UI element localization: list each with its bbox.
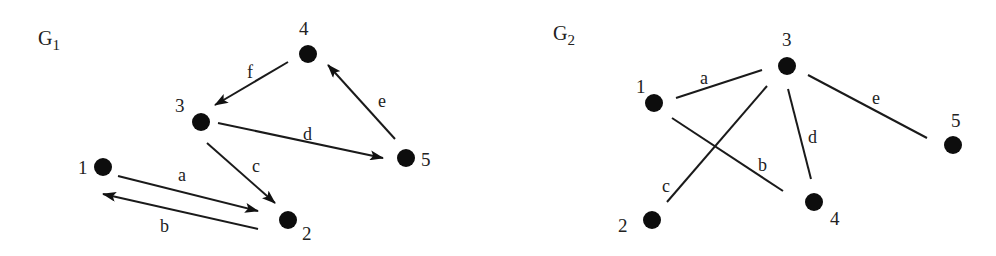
graph-g1-title-sub: 1 bbox=[52, 37, 60, 53]
graph-g2-nodes: 12345 bbox=[618, 29, 962, 236]
node-label-g2-4: 4 bbox=[830, 208, 840, 229]
edge-label-g1-e: e bbox=[378, 91, 386, 111]
edge-label-g1-f: f bbox=[247, 62, 253, 82]
edge-label-g1-c: c bbox=[252, 156, 260, 176]
node-g1-4 bbox=[299, 45, 317, 63]
edge-g2-c bbox=[667, 86, 767, 202]
graph-g2-title-main: G bbox=[553, 22, 567, 44]
node-label-g2-2: 2 bbox=[618, 215, 628, 236]
node-label-g2-3: 3 bbox=[782, 29, 792, 50]
node-g2-2 bbox=[643, 211, 661, 229]
graph-g1-edges: abcdef bbox=[103, 62, 395, 236]
graph-g2: G2 abcde 12345 bbox=[553, 22, 962, 236]
node-g1-1 bbox=[94, 158, 112, 176]
node-g2-1 bbox=[645, 94, 663, 112]
graph-g1-title-main: G bbox=[38, 27, 52, 49]
node-label-g2-1: 1 bbox=[636, 76, 646, 97]
node-label-g1-4: 4 bbox=[299, 18, 309, 39]
graph-g2-title: G2 bbox=[553, 22, 575, 48]
edge-label-g2-d: d bbox=[808, 127, 817, 147]
node-g2-4 bbox=[805, 193, 823, 211]
edge-g1-a bbox=[118, 176, 258, 211]
node-label-g1-5: 5 bbox=[421, 149, 431, 170]
edge-g1-c bbox=[207, 143, 275, 203]
edge-label-g2-c: c bbox=[662, 176, 670, 196]
edge-label-g1-a: a bbox=[178, 165, 186, 185]
edge-g1-d bbox=[218, 123, 383, 158]
edge-g2-e bbox=[808, 75, 927, 138]
edge-g2-a bbox=[676, 70, 762, 98]
edge-label-g2-e: e bbox=[872, 88, 880, 108]
node-g1-5 bbox=[397, 149, 415, 167]
edge-label-g1-d: d bbox=[303, 124, 312, 144]
node-g2-3 bbox=[778, 57, 796, 75]
node-label-g1-2: 2 bbox=[302, 223, 312, 244]
node-g1-3 bbox=[192, 113, 210, 131]
node-label-g1-1: 1 bbox=[78, 157, 88, 178]
node-label-g2-5: 5 bbox=[951, 110, 961, 131]
graph-g2-edges: abcde bbox=[662, 68, 927, 202]
graph-g1-title: G1 bbox=[38, 27, 60, 53]
graph-g1: G1 abcdef 12345 bbox=[38, 18, 431, 244]
edge-label-g2-b: b bbox=[758, 155, 767, 175]
graph-g2-title-sub: 2 bbox=[567, 32, 575, 48]
edge-label-g2-a: a bbox=[700, 68, 708, 88]
edge-g1-b bbox=[103, 194, 258, 229]
node-label-g1-3: 3 bbox=[175, 95, 185, 116]
node-g2-5 bbox=[944, 136, 962, 154]
graph-diagram-canvas: G1 abcdef 12345 G2 abcde 12345 bbox=[0, 0, 996, 256]
edge-label-g1-b: b bbox=[160, 216, 169, 236]
node-g1-2 bbox=[279, 211, 297, 229]
